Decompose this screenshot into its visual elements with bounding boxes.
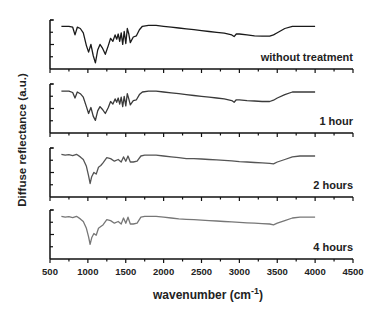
spectrum-line: [61, 216, 315, 244]
panel-label: 1 hour: [319, 115, 353, 127]
figure: without treatment1 hour2 hours4 hours 50…: [0, 0, 380, 318]
panel: 2 hours: [50, 148, 353, 201]
x-tick-label: 500: [42, 266, 58, 277]
panel: 1 hour: [50, 84, 354, 137]
x-axis-label: wavenumber (cm-1): [152, 286, 263, 302]
panel: without treatment: [50, 20, 353, 73]
x-tick-label: 1500: [115, 266, 136, 277]
x-axis-label-superscript: -1: [251, 286, 259, 296]
panels: without treatment1 hour2 hours4 hours: [50, 20, 354, 263]
panel-label: 4 hours: [313, 241, 353, 253]
x-tick-label: 4500: [342, 266, 363, 277]
x-tick-labels: 50010001500200025003000350040004500: [42, 266, 364, 277]
x-tick-label: 1000: [77, 266, 98, 277]
x-tick-label: 4000: [305, 266, 326, 277]
panel-label: 2 hours: [313, 179, 353, 191]
y-axis-label: Diffuse reflectance (a.u.): [16, 73, 28, 207]
x-tick-label: 2000: [153, 266, 174, 277]
x-tick-label: 3500: [267, 266, 288, 277]
panel-label: without treatment: [260, 51, 354, 63]
spectrum-line: [61, 154, 315, 183]
panel: 4 hours: [50, 210, 353, 263]
stacked-spectra-chart: without treatment1 hour2 hours4 hours 50…: [0, 0, 380, 318]
spectrum-line: [61, 91, 315, 120]
x-tick-label: 2500: [191, 266, 212, 277]
x-tick-label: 3000: [229, 266, 250, 277]
